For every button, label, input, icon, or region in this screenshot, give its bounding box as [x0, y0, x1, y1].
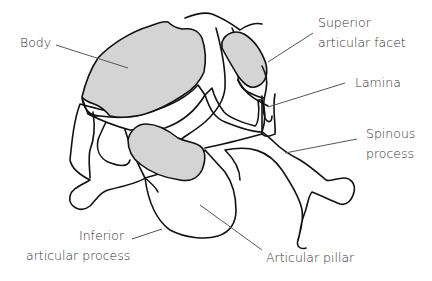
label-superior-articular-facet-1: Superior: [318, 15, 372, 30]
leader-inferior-articular-process: [132, 229, 162, 239]
label-body: Body: [20, 35, 51, 50]
label-spinous-process-2: process: [366, 146, 414, 161]
label-articular-pillar: Articular pillar: [266, 250, 355, 265]
vertebra-diagram: Body Superior articular facet Lamina Spi…: [0, 0, 432, 281]
leader-superior-articular-facet: [268, 33, 313, 62]
superior-articular-facet: [222, 32, 267, 87]
label-lamina: Lamina: [355, 75, 401, 90]
leader-lamina: [268, 83, 345, 107]
spinous-process: [225, 128, 354, 240]
leader-spinous-process: [285, 139, 357, 153]
lamina: [205, 88, 265, 132]
label-inferior-articular-process-1: Inferior: [79, 228, 125, 243]
label-inferior-articular-process-2: articular process: [26, 248, 130, 263]
label-superior-articular-facet-2: articular facet: [318, 35, 406, 50]
label-spinous-process-1: Spinous: [366, 126, 415, 141]
